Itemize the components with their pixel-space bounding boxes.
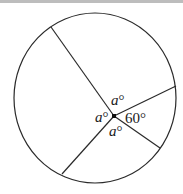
angle-label-bottom: a°	[109, 123, 123, 139]
circle-diagram: a° a° a° 60°	[0, 0, 183, 194]
angle-label-left: a°	[95, 109, 109, 125]
radius-upper-left	[51, 27, 114, 116]
center-point	[112, 114, 116, 118]
angle-label-top: a°	[111, 92, 125, 108]
angle-label-right: 60°	[125, 110, 146, 126]
